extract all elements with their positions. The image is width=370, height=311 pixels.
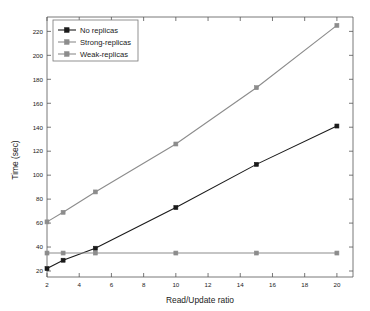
data-point-marker (254, 86, 258, 90)
data-point-marker (61, 258, 65, 262)
x-axis-title: Read/Update ratio (166, 295, 234, 305)
x-tick-label: 8 (142, 281, 146, 288)
y-axis-title: Time (sec) (10, 140, 20, 179)
data-point-marker (93, 246, 97, 250)
y-tick-label: 200 (33, 52, 44, 59)
y-tick-label: 120 (33, 147, 44, 154)
data-point-marker (45, 267, 49, 271)
data-point-marker (174, 206, 178, 210)
chart-container: 20406080100120140160180200220 2468101214… (0, 0, 370, 311)
data-point-marker (254, 251, 258, 255)
y-tick-label: 160 (33, 100, 44, 107)
y-tick-label: 100 (33, 171, 44, 178)
x-tick-label: 14 (237, 281, 244, 288)
x-tick-label: 16 (269, 281, 276, 288)
data-point-marker (61, 210, 65, 214)
data-point-marker (93, 190, 97, 194)
legend-label-1: Strong-replicas (80, 38, 131, 47)
legend: No replicasStrong-replicasWeak-replicas (53, 20, 138, 61)
legend-marker-2 (65, 52, 70, 57)
data-point-marker (93, 251, 97, 255)
x-tick-label: 6 (110, 281, 114, 288)
y-tick-label: 60 (36, 219, 43, 226)
data-point-marker (335, 23, 339, 27)
x-tick-label: 4 (77, 281, 81, 288)
x-tick-label: 20 (333, 281, 340, 288)
data-point-marker (174, 251, 178, 255)
x-tick-label: 2 (45, 281, 49, 288)
y-tick-label: 140 (33, 124, 44, 131)
data-point-marker (335, 124, 339, 128)
y-tick-label: 80 (36, 195, 43, 202)
legend-label-2: Weak-replicas (80, 50, 128, 59)
legend-label-0: No replicas (80, 26, 118, 35)
y-tick-label: 180 (33, 76, 44, 83)
data-point-marker (254, 162, 258, 166)
line-chart: 20406080100120140160180200220 2468101214… (0, 0, 370, 311)
legend-marker-0 (65, 28, 70, 33)
data-point-marker (174, 142, 178, 146)
y-tick-label: 220 (33, 28, 44, 35)
x-tick-label: 18 (301, 281, 308, 288)
data-point-marker (45, 220, 49, 224)
data-point-marker (335, 251, 339, 255)
data-point-marker (61, 251, 65, 255)
legend-marker-1 (65, 40, 70, 45)
y-tick-label: 40 (36, 243, 43, 250)
y-tick-label: 20 (36, 267, 43, 274)
data-point-marker (45, 251, 49, 255)
x-tick-label: 12 (205, 281, 212, 288)
x-tick-label: 10 (172, 281, 179, 288)
